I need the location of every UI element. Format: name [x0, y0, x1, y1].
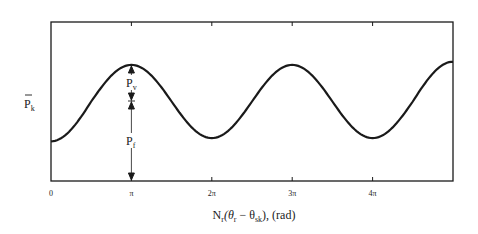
x-tick-label-0: 0	[49, 189, 53, 198]
y-axis-label: Pk	[24, 95, 35, 113]
svg-text:Pk: Pk	[24, 97, 35, 113]
x-tick-label-2pi: 2π	[208, 189, 216, 198]
x-tick-label-4pi: 4π	[369, 189, 377, 198]
x-tick-label-pi: π	[129, 189, 133, 198]
series-line-pk	[51, 62, 453, 142]
x-tick-label-3pi: 3π	[288, 189, 296, 198]
chart: 0 π 2π 3π 4π Pv Pf Pk Nr(θr − θsk), (rad…	[0, 0, 478, 234]
x-axis-label: Nr(θr − θsk), (rad)	[213, 208, 296, 224]
